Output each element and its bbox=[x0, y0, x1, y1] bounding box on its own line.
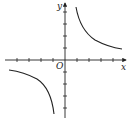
hyperbola-branch-quadrant-1 bbox=[76, 7, 122, 49]
origin-label: O bbox=[56, 61, 64, 71]
hyperbola-branch-quadrant-3 bbox=[9, 70, 54, 114]
y-axis-label: y bbox=[56, 1, 63, 11]
x-axis-label: x bbox=[121, 62, 126, 72]
hyperbola-graph: y x O bbox=[0, 0, 131, 123]
